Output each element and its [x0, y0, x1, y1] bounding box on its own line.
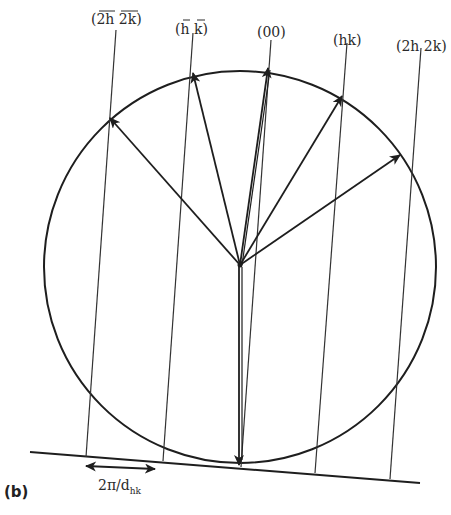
vector-2h2k	[240, 155, 400, 265]
vector-hk	[240, 96, 342, 265]
origin-point	[238, 263, 243, 268]
vector-00-shadow	[242, 70, 270, 265]
panel-label: (b)	[4, 483, 28, 501]
spacing-label: 2π/dhk	[98, 477, 142, 496]
spacing-arrow	[86, 466, 155, 469]
reciprocal-rods	[86, 30, 421, 479]
spacing-label-main: 2π/d	[98, 477, 130, 493]
label-hk-bar: (h k)	[175, 21, 208, 37]
spacing-label-sub: hk	[130, 486, 142, 496]
vector-00	[240, 68, 268, 265]
beam-labels: (2h 2k) (h k) (00) (hk) (2h 2k)	[91, 11, 447, 54]
vector-hk-bar	[193, 73, 240, 265]
vector-2h2k-bar	[110, 118, 240, 265]
rod-2h2k-bar	[86, 30, 116, 457]
label-hk: (hk)	[333, 32, 361, 48]
rod-hk	[315, 43, 347, 473]
rod-hk-bar	[163, 33, 193, 461]
reciprocal-plane-line	[30, 452, 420, 483]
rod-2h2k	[390, 48, 421, 479]
label-2h2k: (2h 2k)	[396, 38, 447, 54]
label-00: (00)	[257, 24, 286, 40]
label-2h2k-bar: (2h 2k)	[91, 11, 142, 27]
ewald-construction-diagram: (2h 2k) (h k) (00) (hk) (2h 2k) 2π/dhk (…	[0, 0, 451, 515]
scattered-vectors	[110, 68, 400, 265]
